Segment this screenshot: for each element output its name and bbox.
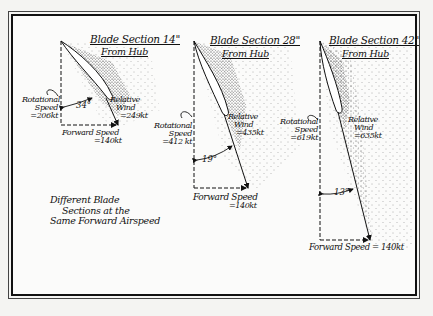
section-14-rotational-label: Rotational Speed =206kt (22, 96, 58, 120)
relative-wind-value: =249kt (110, 112, 148, 120)
section-42-relative-label: Relative Wind =635kt (348, 116, 382, 140)
section-42-angle: 13° (334, 188, 349, 197)
caption-line: Same Forward Airspeed (50, 216, 160, 227)
section-42-rotational-label: Rotational Speed =619kt (272, 118, 318, 142)
forward-speed-value: =140kt (62, 137, 122, 145)
rotational-speed-value: =619kt (272, 134, 318, 142)
rotational-speed-value: =412 kt (146, 138, 192, 146)
figure-caption: Different Blade Sections at the Same For… (50, 195, 160, 227)
relative-wind-value: =435kt (228, 129, 264, 137)
section-42-title: Blade Section 42" (329, 35, 419, 46)
rotational-speed-value: =206kt (22, 112, 58, 120)
section-28-angle: 19° (202, 155, 217, 164)
forward-speed-value: =140kt (193, 202, 258, 210)
section-42-subtitle: From Hub (342, 49, 389, 59)
section-14-relative-label: Relative Wind =249kt (110, 96, 148, 120)
section-14-angle: 34° (76, 101, 91, 110)
section-28-relative-label: Relative Wind =435kt (228, 113, 264, 137)
relative-wind-value: =635kt (348, 132, 382, 140)
section-42-diagram (308, 41, 412, 250)
section-28-rotational-label: Rotational Speed =412 kt (146, 122, 192, 146)
section-28-forward-label: Forward Speed =140kt (193, 193, 258, 210)
section-28-subtitle: From Hub (222, 49, 269, 59)
section-42-forward-label: Forward Speed = 140kt (309, 243, 404, 252)
section-14-subtitle: From Hub (101, 47, 148, 57)
section-14-title: Blade Section 14" (90, 34, 180, 45)
section-14-forward-label: Forward Speed =140kt (62, 129, 122, 145)
section-28-title: Blade Section 28" (210, 35, 300, 46)
